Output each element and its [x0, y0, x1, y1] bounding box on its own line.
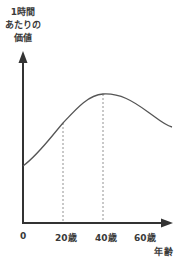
x-axis-label: 年齢 [154, 245, 174, 258]
x-tick-20: 20歳 [55, 231, 77, 244]
chart-canvas [0, 0, 194, 262]
value-curve [23, 94, 172, 166]
x-tick-0: 0 [20, 231, 26, 241]
x-tick-40: 40歳 [95, 231, 117, 244]
x-tick-60: 60歳 [134, 231, 156, 244]
y-axis-arrow-icon [19, 51, 28, 63]
x-axis-arrow-icon [161, 219, 173, 228]
